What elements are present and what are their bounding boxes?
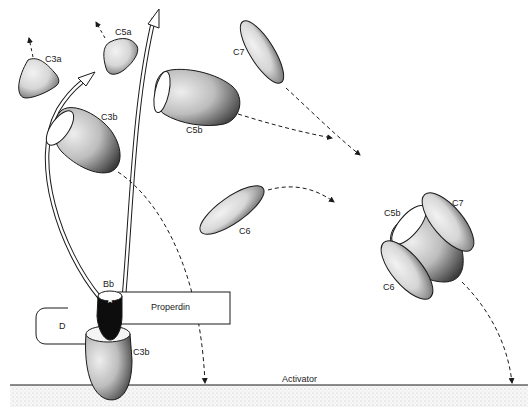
membrane-stipple [10, 385, 528, 407]
c5a-release-arrow [96, 22, 105, 38]
activator-label: Activator [282, 374, 317, 384]
c5b67-complex: C5b C7 C6 [372, 185, 482, 307]
c5b-free-fragment: C5b [151, 69, 240, 135]
c7-free-label: C7 [233, 47, 245, 57]
c3a-fragment: C3a [19, 38, 62, 98]
c5b-free-label: C5b [186, 125, 203, 135]
c3a-shape [19, 59, 59, 98]
complex-c6-label: C6 [383, 282, 395, 292]
factor-d-label: D [59, 321, 66, 331]
complex-c7-label: C7 [452, 198, 464, 208]
bb-enzyme: ★ Bb [97, 279, 122, 340]
c7-move-arrow [286, 88, 360, 155]
c6-free-fragment: C6 [193, 178, 270, 243]
c3b-free-label: C3b [101, 112, 118, 122]
active-site-star-icon: ★ [106, 295, 114, 305]
diagram-canvas: Activator C3a C5a C3b C5b C7 [0, 0, 528, 407]
c5a-shape [104, 39, 138, 75]
c7-free-fragment: C7 [233, 15, 292, 89]
c3a-label: C3a [45, 54, 62, 64]
c3a-release-arrow [29, 38, 33, 57]
c5a-label: C5a [115, 27, 132, 37]
complement-diagram: Activator C3a C5a C3b C5b C7 [0, 0, 528, 407]
c5a-fragment: C5a [96, 22, 138, 74]
complex-binding-arrow [462, 282, 512, 383]
c3b-bound-label: C3b [133, 347, 150, 357]
arrow-to-c5-head [148, 9, 159, 28]
bb-label: Bb [103, 279, 114, 289]
c6-free-label: C6 [239, 226, 251, 236]
c6-free-shape [193, 178, 270, 243]
c6-move-arrow [268, 187, 334, 202]
properdin: Properdin [118, 292, 230, 324]
factor-d: D [36, 308, 88, 344]
complex-c5b-label: C5b [384, 208, 401, 218]
properdin-label: Properdin [151, 302, 190, 312]
activator-surface: Activator [10, 374, 528, 407]
